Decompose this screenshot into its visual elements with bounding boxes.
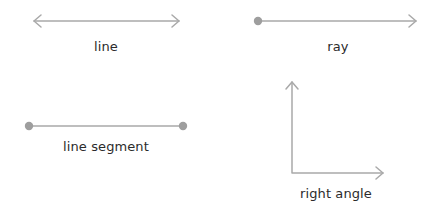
segment-endpoint-dot-right	[179, 122, 187, 130]
ray-figure	[258, 15, 416, 27]
line-figure	[34, 15, 179, 27]
right-angle-label: right angle	[300, 186, 372, 201]
segment-figure	[25, 122, 187, 130]
right-angle-figure	[286, 82, 383, 179]
ray-label: ray	[327, 39, 348, 54]
line-label: line	[94, 39, 118, 54]
diagram-canvas	[0, 0, 428, 214]
segment-endpoint-dot-left	[25, 122, 33, 130]
segment-label: line segment	[63, 139, 149, 154]
ray-endpoint-dot	[254, 17, 262, 25]
